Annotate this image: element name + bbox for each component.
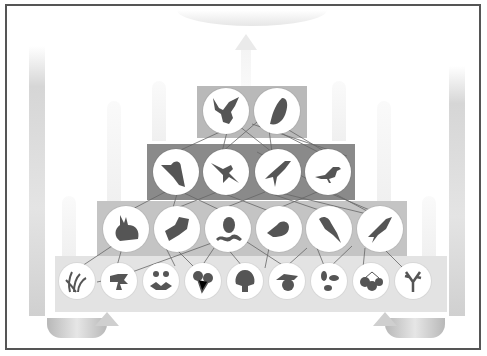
- node-parrot[interactable]: [306, 206, 352, 252]
- fruit-icon: [274, 268, 300, 294]
- owl-icon: [260, 94, 294, 128]
- twig-icon: [400, 268, 426, 294]
- ghost-arrow: [152, 81, 166, 141]
- grass-icon: [64, 268, 90, 294]
- node-owl[interactable]: [254, 88, 300, 134]
- parrot-icon: [313, 213, 345, 245]
- left-cycle-bar: [29, 46, 45, 316]
- quail-icon: [263, 213, 295, 245]
- node-kingfisher[interactable]: [153, 149, 199, 195]
- node-crow[interactable]: [255, 149, 301, 195]
- eagle-icon: [209, 94, 243, 128]
- left-recycle-arrow-icon: [95, 312, 119, 326]
- flower-icon: [190, 268, 216, 294]
- tree-icon: [232, 268, 258, 294]
- kingfisher-icon: [159, 155, 193, 189]
- node-songbird[interactable]: [305, 149, 351, 195]
- diagram-frame: [5, 4, 481, 350]
- ghost-arrow: [62, 196, 76, 256]
- ghost-arrow: [377, 101, 391, 201]
- node-leaves[interactable]: [311, 263, 347, 299]
- node-fruit[interactable]: [269, 263, 305, 299]
- node-grass[interactable]: [59, 263, 95, 299]
- node-rabbit[interactable]: [103, 206, 149, 252]
- ghost-arrow: [332, 81, 346, 141]
- node-insects[interactable]: [205, 206, 251, 252]
- node-swallow[interactable]: [203, 149, 249, 195]
- node-small-bird[interactable]: [357, 206, 403, 252]
- right-recycle-arrow-icon: [373, 312, 397, 326]
- node-moth[interactable]: [154, 206, 200, 252]
- shrub-icon: [106, 268, 132, 294]
- right-cycle-bar: [449, 66, 465, 316]
- rabbit-icon: [110, 213, 142, 245]
- node-shrub[interactable]: [101, 263, 137, 299]
- ghost-arrow: [107, 101, 121, 201]
- berries-icon: [358, 268, 384, 294]
- node-tree[interactable]: [227, 263, 263, 299]
- node-eagle[interactable]: [203, 88, 249, 134]
- node-berries[interactable]: [353, 263, 389, 299]
- songbird-icon: [311, 155, 345, 189]
- leaves-icon: [316, 268, 342, 294]
- dandelion-icon: [148, 268, 174, 294]
- ghost-arrow: [422, 196, 436, 256]
- swallow-icon: [209, 155, 243, 189]
- node-quail[interactable]: [256, 206, 302, 252]
- energy-up-arrow-icon: [235, 34, 257, 50]
- moth-icon: [161, 213, 193, 245]
- node-flowers[interactable]: [185, 263, 221, 299]
- crow-icon: [261, 155, 295, 189]
- insect-icon: [212, 213, 244, 245]
- node-twig[interactable]: [395, 263, 431, 299]
- node-dandelion[interactable]: [143, 263, 179, 299]
- sky-cloud: [177, 10, 327, 26]
- small-bird-icon: [364, 213, 396, 245]
